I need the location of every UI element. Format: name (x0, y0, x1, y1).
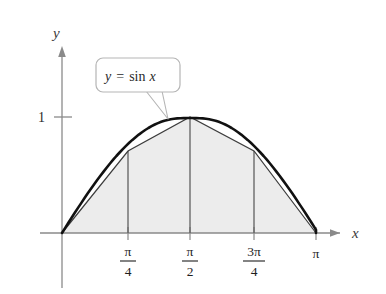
callout-y: y (103, 69, 112, 84)
frac-numerator: π (187, 244, 194, 259)
y-tick-label-1: 1 (38, 110, 45, 125)
callout-sin: sin (129, 69, 145, 84)
frac-numerator: π (125, 244, 132, 259)
y-axis-label: y (51, 25, 60, 41)
x-axis-label: x (351, 225, 359, 241)
x-axis-arrow-icon (330, 229, 340, 237)
frac-denominator: 4 (251, 264, 258, 279)
callout-equals: = (116, 69, 124, 84)
frac-denominator: 2 (187, 264, 194, 279)
callout-x: x (148, 69, 156, 84)
x-tick-label-pi-over-2: π 2 (182, 244, 198, 279)
frac-denominator: 4 (125, 264, 132, 279)
trapezoidal-rule-figure: y=sinx y x 1 π 4 π 2 3π 4 π (0, 0, 386, 294)
x-tick-label-3pi-over-4: 3π 4 (243, 244, 265, 279)
x-tick-label-pi: π (313, 246, 320, 261)
whole-label: π (313, 246, 320, 261)
y-axis-arrow-icon (58, 46, 66, 57)
callout-tail (146, 91, 168, 119)
callout-box: y=sinx (96, 58, 180, 119)
x-tick-label-pi-over-4: π 4 (120, 244, 136, 279)
frac-numerator: 3π (247, 244, 261, 259)
